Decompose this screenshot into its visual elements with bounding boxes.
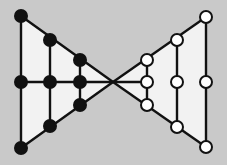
graph-node [74,54,86,66]
graph-node [44,34,56,46]
graph-node [141,99,153,111]
graph-node [15,76,27,88]
left-triangle-black-nodes [15,10,113,154]
graph-node [171,76,183,88]
graph-node [44,76,56,88]
graph-node [171,34,183,46]
right-triangle-white-nodes [113,11,212,153]
graph-node [200,11,212,23]
graph-node [15,142,27,154]
graph-node [141,76,153,88]
graph-node [15,10,27,22]
graph-node [171,121,183,133]
graph-node [44,120,56,132]
graph-node [200,141,212,153]
graph-node [200,76,212,88]
bowtie-graph-diagram [0,0,227,165]
graph-node [74,99,86,111]
graph-node [141,54,153,66]
graph-node [74,76,86,88]
